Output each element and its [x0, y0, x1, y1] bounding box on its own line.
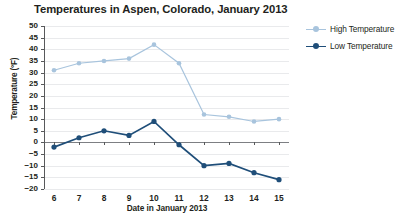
data-point	[51, 144, 56, 149]
x-axis-label: Date in January 2013	[44, 203, 290, 213]
data-point	[276, 177, 281, 182]
data-point	[77, 61, 82, 66]
y-tick-label: 40	[0, 45, 38, 53]
data-point	[277, 117, 282, 122]
data-point	[177, 61, 182, 66]
data-point	[251, 170, 256, 175]
y-tick-label: 45	[0, 34, 38, 42]
legend: High Temperature Low Temperature	[306, 22, 394, 56]
data-point	[152, 42, 157, 47]
y-tick	[41, 189, 44, 190]
data-point	[52, 68, 57, 73]
data-point	[227, 115, 232, 120]
legend-swatch-low-icon	[306, 41, 326, 51]
data-point	[151, 119, 156, 124]
data-point	[252, 119, 257, 124]
data-point	[126, 133, 131, 138]
y-tick-label: 10	[0, 115, 38, 123]
series-line-high	[54, 45, 279, 122]
x-tick-label: 15	[264, 193, 294, 203]
y-tick-label: 0	[0, 138, 38, 146]
data-point	[201, 163, 206, 168]
data-point	[102, 59, 107, 64]
y-tick-label: −20	[0, 185, 38, 193]
plot-area: 50454035302520151050−5−10−15−20 67891011…	[44, 26, 289, 189]
y-tick-label: 25	[0, 80, 38, 88]
legend-item-high[interactable]: High Temperature	[306, 22, 394, 36]
series-line-low	[54, 121, 279, 179]
y-tick-label: −15	[0, 173, 38, 181]
y-tick-label: 20	[0, 92, 38, 100]
data-point	[202, 112, 207, 117]
data-point	[176, 142, 181, 147]
y-tick-label: −5	[0, 150, 38, 158]
grid-line	[44, 189, 289, 190]
y-tick-label: −10	[0, 162, 38, 170]
data-point	[226, 161, 231, 166]
data-point	[127, 56, 132, 61]
legend-item-low[interactable]: Low Temperature	[306, 39, 394, 53]
y-tick-label: 15	[0, 104, 38, 112]
y-tick-label: 35	[0, 57, 38, 65]
chart-container: Temperatures in Aspen, Colorado, January…	[0, 0, 401, 220]
legend-label-high: High Temperature	[330, 24, 394, 34]
data-point	[101, 128, 106, 133]
legend-label-low: Low Temperature	[330, 41, 392, 51]
y-tick-label: 5	[0, 127, 38, 135]
legend-swatch-high-icon	[306, 24, 326, 34]
data-point	[76, 135, 81, 140]
y-tick-label: 50	[0, 22, 38, 30]
y-tick-label: 30	[0, 69, 38, 77]
series-lines	[44, 26, 289, 189]
chart-title: Temperatures in Aspen, Colorado, January…	[34, 3, 288, 15]
